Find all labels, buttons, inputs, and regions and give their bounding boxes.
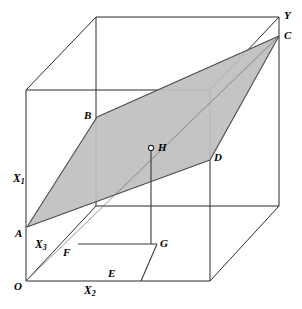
label-point-h: H — [158, 142, 167, 153]
axis-label-x2-sub: 2 — [92, 289, 96, 298]
axis-label-x1-base: X — [13, 172, 21, 184]
axis-label-x3-base: X — [35, 238, 43, 250]
axis-label-x2: X2 — [84, 285, 96, 298]
axis-label-x3-sub: 3 — [43, 243, 47, 252]
label-point-f: F — [63, 247, 70, 258]
segment-e-g — [141, 244, 157, 281]
label-point-a: A — [15, 228, 22, 239]
label-point-d: D — [214, 152, 222, 163]
label-point-y: Y — [284, 10, 291, 21]
label-point-b: B — [84, 110, 91, 121]
shaded-plane-abcd — [27, 36, 279, 227]
label-point-e: E — [108, 268, 115, 279]
cube-plane-svg — [0, 0, 302, 309]
depth-edge-bottom-right — [210, 206, 279, 281]
axis-label-x1: X1 — [13, 173, 25, 186]
axis-label-x1-sub: 1 — [21, 177, 25, 186]
base-construction-lines — [78, 244, 157, 281]
geometry-figure: Y C B D H A F G E O X1 X2 X3 — [0, 0, 302, 309]
axis-label-x3: X3 — [35, 239, 47, 252]
point-h-marker — [148, 145, 153, 150]
label-point-o: O — [14, 281, 22, 292]
axis-label-x2-base: X — [84, 284, 92, 296]
depth-edge-top-left — [26, 17, 96, 90]
label-point-g: G — [160, 238, 168, 249]
label-point-c: C — [284, 30, 291, 41]
